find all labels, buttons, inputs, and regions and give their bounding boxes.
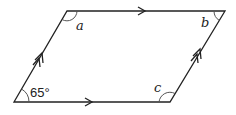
angle-arc-bottom-left xyxy=(22,89,30,102)
diagram-svg: 65° a b c xyxy=(0,0,236,115)
angle-label-b: b xyxy=(201,15,209,30)
angle-label-65: 65° xyxy=(30,85,50,100)
angle-arc-top-right xyxy=(214,11,220,21)
angle-label-a: a xyxy=(76,18,84,33)
double-arrow-right-side-icon xyxy=(191,49,201,63)
angle-label-c: c xyxy=(154,80,162,95)
parallelogram-diagram: 65° a b c xyxy=(0,0,236,115)
